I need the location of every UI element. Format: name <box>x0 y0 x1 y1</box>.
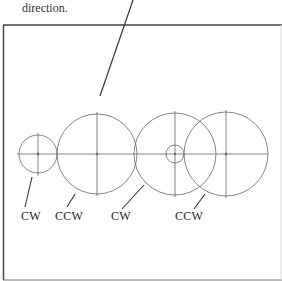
gear-4-center <box>225 153 227 155</box>
label-4-leader <box>194 194 205 209</box>
gear-2-direction-label: CCW <box>55 209 83 224</box>
gear-4-direction-label: CCW <box>175 209 203 224</box>
gear-3-direction-label: CW <box>111 209 131 224</box>
label-2-leader <box>67 194 75 207</box>
gear-1 <box>19 133 57 176</box>
gear-1-center <box>37 153 39 155</box>
label-1-leader <box>25 177 32 207</box>
gear-train-diagram: direction. CW CCW CW CCW <box>0 0 282 281</box>
gear-1-direction-label: CW <box>21 209 41 224</box>
caption-leader-line <box>100 0 133 96</box>
caption-text: direction. <box>22 1 68 16</box>
diagram-canvas <box>0 0 282 281</box>
label-3-leader <box>122 185 144 209</box>
gear-3-center <box>174 153 176 155</box>
gear-2-center <box>96 153 98 155</box>
